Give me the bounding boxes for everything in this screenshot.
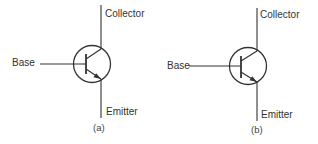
collector-label-a: Collector	[105, 9, 144, 19]
emitter-arrow-icon-b	[250, 76, 258, 82]
collector-internal-a	[86, 49, 101, 59]
collector-internal-b	[241, 51, 257, 61]
base-label-a: Base	[12, 58, 35, 68]
caption-a: (a)	[93, 123, 105, 133]
caption-b: (b)	[251, 125, 263, 135]
figure-b: Base Collector Emitter (b)	[159, 0, 318, 144]
emitter-label-a: Emitter	[106, 107, 138, 117]
figure-a: Base Collector Emitter (a)	[0, 0, 159, 144]
emitter-label-b: Emitter	[261, 110, 293, 120]
base-label-b: Base	[167, 61, 190, 71]
transistor-symbol-a	[0, 0, 159, 144]
collector-label-b: Collector	[260, 10, 299, 20]
transistor-symbol-b	[159, 0, 318, 144]
